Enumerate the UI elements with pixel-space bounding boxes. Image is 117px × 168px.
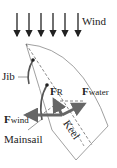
mainsail-label: Mainsail: [4, 134, 43, 145]
wind-label: Wind: [82, 16, 106, 27]
force-water-label: Fwater: [82, 86, 109, 97]
force-resultant-label: FR: [50, 86, 63, 97]
wind-arrows: [17, 13, 78, 36]
force-wind-label: Fwind: [4, 114, 29, 125]
jib-label: Jib: [2, 71, 15, 82]
force-water-arrow: [62, 104, 84, 115]
